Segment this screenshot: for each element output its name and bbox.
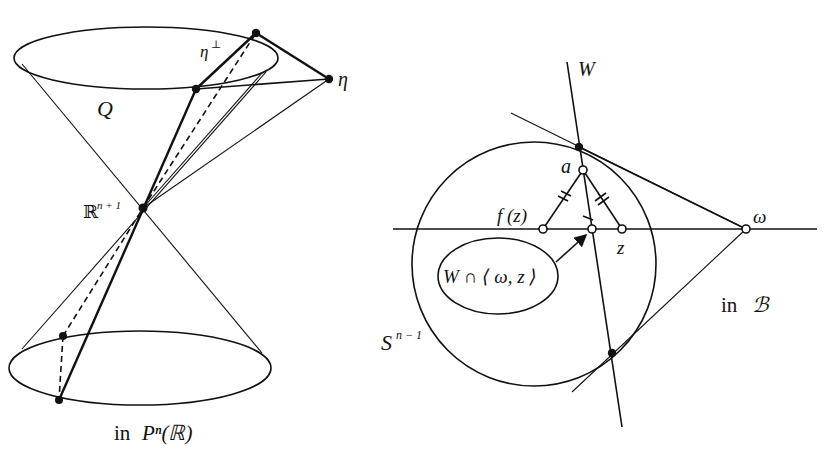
- right-caption-math: ℬ: [752, 293, 770, 317]
- label-eta-perp: η: [200, 42, 208, 61]
- segment-a-z: [583, 170, 622, 229]
- left-caption-math: Pⁿ(ℝ): [141, 421, 192, 445]
- point-f-z: [539, 225, 547, 233]
- bottom-ellipse: [9, 331, 271, 405]
- dashed-line-lower: [63, 208, 143, 336]
- point-z: [618, 225, 626, 233]
- top-ellipse-quadric: [14, 27, 278, 89]
- label-callout: W ∩ ⟨ ω, z ⟩: [443, 266, 537, 287]
- top-ellipse-point: [252, 29, 260, 37]
- cone-generator-inner: [143, 73, 262, 208]
- sphere-circle: [412, 142, 656, 386]
- perpendicular-tick: [583, 216, 593, 220]
- label-W: W: [578, 58, 597, 80]
- tangent-point-lower: [608, 349, 616, 357]
- left-caption-prefix: in: [114, 421, 131, 445]
- bottom-ellipse-point-upper: [59, 332, 67, 340]
- label-Q: Q: [97, 96, 113, 121]
- projective-line-thick: [59, 89, 196, 400]
- left-panel-cone-diagram: Q η η ⊥ ℝ n + 1 in Pⁿ(ℝ): [9, 27, 348, 445]
- ellipse-front-point: [192, 85, 200, 93]
- label-z: z: [616, 237, 625, 258]
- figure-canvas: Q η η ⊥ ℝ n + 1 in Pⁿ(ℝ): [0, 0, 828, 449]
- apex-point: [139, 204, 148, 213]
- label-a: a: [561, 155, 571, 177]
- eta-point: [325, 75, 333, 83]
- tangent-line-top: [256, 33, 329, 79]
- point-W-intersection: [588, 225, 596, 233]
- right-caption-prefix: in: [721, 293, 738, 317]
- tangent-upper-thick: [579, 147, 746, 229]
- point-a: [579, 166, 587, 174]
- label-omega: ω: [753, 206, 766, 227]
- callout-arrow: [556, 235, 586, 262]
- tangent-point-upper: [575, 143, 583, 151]
- label-sphere: S: [381, 330, 392, 355]
- right-panel-ball-diagram: W a f (z) z ω S n − 1 W ∩ ⟨ ω, z ⟩ in ℬ: [381, 58, 817, 427]
- point-omega: [742, 225, 750, 233]
- label-eta-perp-sup: ⊥: [211, 38, 221, 50]
- bottom-ellipse-point-lower: [55, 396, 63, 404]
- label-sphere-sup: n − 1: [396, 328, 422, 342]
- label-apex-sup: n + 1: [97, 199, 121, 211]
- tangent-lower: [572, 229, 746, 392]
- segment-a-fz: [543, 170, 583, 229]
- label-eta: η: [338, 68, 348, 91]
- label-f-z: f (z): [497, 205, 527, 227]
